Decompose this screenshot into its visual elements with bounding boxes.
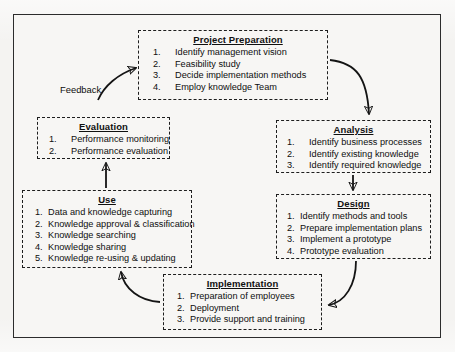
process-box-title: Use [28, 194, 186, 206]
process-box-title: Project Preparation [144, 34, 322, 46]
list-item-text: Prepare implementation plans [300, 223, 425, 235]
list-item-number: 2. [287, 149, 309, 161]
list-item-number: 1. [49, 134, 71, 146]
list-item-number: 4. [35, 242, 48, 254]
list-item-number: 1. [35, 207, 48, 219]
list-item-text: Performance evaluation [71, 146, 168, 158]
list-item-text: Employ knowledge Team [175, 82, 322, 94]
list-item-text: Feasibility study [175, 59, 322, 71]
list-item: 4. Employ knowledge Team [153, 82, 322, 94]
process-box-title: Evaluation [43, 121, 164, 133]
process-box-analysis[interactable]: Analysis 1. Identify business processes … [276, 120, 431, 173]
list-item: 3. Knowledge searching [35, 230, 186, 242]
list-item-text: Knowledge re-using & updating [48, 253, 186, 265]
list-item-text: Decide implementation methods [175, 70, 322, 82]
process-box-implementation[interactable]: Implementation 1. Preparation of employe… [163, 274, 322, 330]
process-box-evaluation[interactable]: Evaluation 1. Performance monitoring 2. … [37, 117, 170, 159]
list-item-number: 2. [153, 59, 175, 71]
list-item: 3. Implement a prototype [287, 234, 425, 246]
list-item-text: Identify management vision [175, 47, 322, 59]
list-item-number: 3. [35, 230, 48, 242]
diagram-page: Project Preparation 1. Identify manageme… [0, 0, 455, 352]
list-item-text: Data and knowledge capturing [48, 207, 186, 219]
list-item-text: Prototype evaluation [300, 246, 425, 258]
list-item-text: Identify business processes [309, 137, 425, 149]
list-item: 1. Data and knowledge capturing [35, 207, 186, 219]
list-item-number: 1. [287, 137, 309, 149]
process-box-title: Analysis [282, 124, 425, 136]
list-item: 1. Preparation of employees [177, 291, 316, 303]
process-box-item-list: 1. Data and knowledge capturing 2. Knowl… [28, 207, 186, 265]
list-item: 4. Knowledge sharing [35, 242, 186, 254]
list-item: 2. Performance evaluation [49, 146, 164, 158]
process-box-item-list: 1. Identify business processes 2. Identi… [282, 137, 425, 172]
process-box-item-list: 1. Identify management vision 2. Feasibi… [144, 47, 322, 93]
list-item-text: Performance monitoring [71, 134, 169, 146]
list-item: 2. Identify existing knowledge [287, 149, 425, 161]
list-item-number: 2. [35, 219, 48, 231]
process-box-design[interactable]: Design 1. Identify methods and tools 2. … [276, 194, 431, 259]
list-item-number: 2. [49, 146, 71, 158]
process-box-project-preparation[interactable]: Project Preparation 1. Identify manageme… [138, 30, 328, 100]
list-item-number: 4. [153, 82, 175, 94]
list-item-number: 3. [177, 314, 190, 326]
list-item-number: 1. [177, 291, 190, 303]
process-box-item-list: 1. Preparation of employees 2. Deploymen… [169, 291, 316, 326]
list-item: 2. Feasibility study [153, 59, 322, 71]
list-item: 3. Provide support and training [177, 314, 316, 326]
process-box-item-list: 1. Performance monitoring 2. Performance… [43, 134, 164, 157]
list-item: 2. Prepare implementation plans [287, 223, 425, 235]
list-item-number: 3. [153, 70, 175, 82]
list-item: 4. Prototype evaluation [287, 246, 425, 258]
list-item-number: 3. [287, 234, 300, 246]
list-item-text: Implement a prototype [300, 234, 425, 246]
list-item: 5. Knowledge re-using & updating [35, 253, 186, 265]
list-item-text: Identify existing knowledge [309, 149, 425, 161]
process-box-title: Design [282, 198, 425, 210]
list-item-number: 3. [287, 160, 309, 172]
process-box-use[interactable]: Use 1. Data and knowledge capturing 2. K… [22, 190, 192, 268]
list-item-number: 2. [287, 223, 300, 235]
list-item-text: Deployment [190, 303, 316, 315]
list-item: 1. Identify business processes [287, 137, 425, 149]
list-item: 2. Knowledge approval & classification [35, 219, 186, 231]
list-item-number: 4. [287, 246, 300, 258]
list-item-text: Identify methods and tools [300, 211, 425, 223]
list-item: 1. Performance monitoring [49, 134, 164, 146]
list-item: 2. Deployment [177, 303, 316, 315]
list-item-number: 1. [153, 47, 175, 59]
list-item-text: Identify required knowledge [309, 160, 425, 172]
process-box-title: Implementation [169, 278, 316, 290]
list-item-text: Preparation of employees [190, 291, 316, 303]
list-item: 1. Identify management vision [153, 47, 322, 59]
list-item: 3. Decide implementation methods [153, 70, 322, 82]
list-item: 3. Identify required knowledge [287, 160, 425, 172]
list-item: 1. Identify methods and tools [287, 211, 425, 223]
list-item-text: Knowledge sharing [48, 242, 186, 254]
list-item-number: 1. [287, 211, 300, 223]
list-item-text: Knowledge approval & classification [48, 219, 195, 231]
list-item-number: 2. [177, 303, 190, 315]
list-item-number: 5. [35, 253, 48, 265]
feedback-arrow-label: Feedback [60, 84, 101, 95]
process-box-item-list: 1. Identify methods and tools 2. Prepare… [282, 211, 425, 257]
list-item-text: Knowledge searching [48, 230, 186, 242]
list-item-text: Provide support and training [190, 314, 316, 326]
